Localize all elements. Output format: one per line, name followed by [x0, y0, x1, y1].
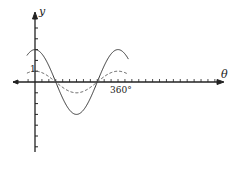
x-tick-label-360: 360° [110, 85, 132, 95]
theta-axis-label: θ [221, 68, 228, 81]
y-unit-label: 1 [30, 64, 36, 74]
y-axis-label: y [39, 5, 45, 18]
axes [13, 12, 224, 152]
